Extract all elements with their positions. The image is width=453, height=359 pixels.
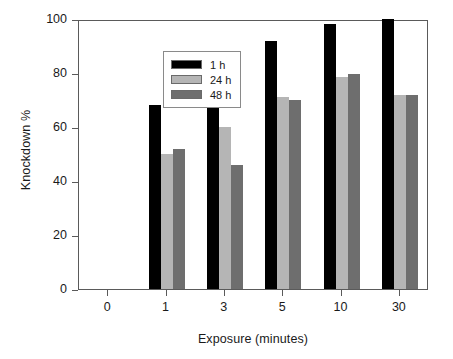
y-axis-tick-label: 60 <box>7 120 67 134</box>
x-axis-tick-label: 1 <box>136 300 196 314</box>
y-axis-tick-label: 20 <box>7 228 67 242</box>
bar-group <box>90 21 126 289</box>
x-axis-tick-label: 3 <box>194 300 254 314</box>
legend-item: 1 h <box>171 58 231 71</box>
bar <box>231 165 243 289</box>
legend-swatch <box>171 60 202 69</box>
x-axis-tick-mark <box>224 290 225 296</box>
bar <box>277 97 289 289</box>
x-axis-title: Exposure (minutes) <box>78 332 428 346</box>
bar <box>324 24 336 289</box>
x-axis-tick-label: 10 <box>311 300 371 314</box>
plot-area: 1 h24 h48 h <box>78 20 428 290</box>
y-axis-tick-mark <box>72 290 78 291</box>
bar <box>207 105 219 289</box>
x-axis-tick-label: 0 <box>77 300 137 314</box>
bar <box>289 100 301 289</box>
bar <box>406 95 418 289</box>
x-axis-tick-label: 30 <box>369 300 429 314</box>
x-axis-tick-mark <box>166 290 167 296</box>
bar <box>265 41 277 289</box>
chart-legend: 1 h24 h48 h <box>163 51 241 108</box>
legend-label: 24 h <box>210 74 231 86</box>
y-axis-title: Knockdown % <box>19 50 33 250</box>
legend-label: 1 h <box>210 59 225 71</box>
x-axis-tick-label: 5 <box>252 300 312 314</box>
bar <box>219 127 231 289</box>
bar <box>173 149 185 289</box>
y-axis-tick-label: 80 <box>7 66 67 80</box>
legend-item: 48 h <box>171 88 231 101</box>
bar-group <box>382 21 418 289</box>
x-axis-tick-mark <box>399 290 400 296</box>
bar <box>394 95 406 289</box>
bar <box>149 105 161 289</box>
bar <box>382 19 394 289</box>
bar <box>348 74 360 289</box>
bar-group <box>324 21 360 289</box>
legend-item: 24 h <box>171 73 231 86</box>
y-axis-tick-label: 100 <box>7 12 67 26</box>
x-axis-tick-mark <box>107 290 108 296</box>
legend-label: 48 h <box>210 89 231 101</box>
bar <box>336 77 348 289</box>
y-axis-tick-label: 0 <box>7 282 67 296</box>
bar-chart: Knockdown % 020406080100 1 h24 h48 h 013… <box>0 0 453 359</box>
legend-swatch <box>171 75 202 84</box>
x-axis-tick-mark <box>282 290 283 296</box>
bar <box>161 154 173 289</box>
bar-group <box>265 21 301 289</box>
y-axis-tick-label: 40 <box>7 174 67 188</box>
legend-swatch <box>171 90 202 99</box>
x-axis-tick-mark <box>341 290 342 296</box>
